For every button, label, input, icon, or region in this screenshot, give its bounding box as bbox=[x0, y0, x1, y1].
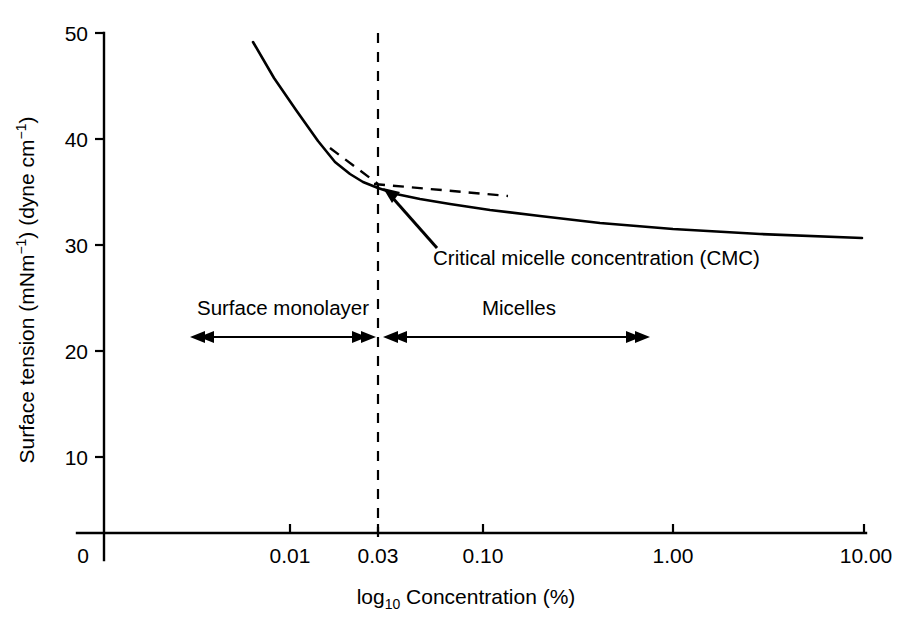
x-tick-label-10-00: 10.00 bbox=[840, 544, 893, 567]
x-tick-label-0-01: 0.01 bbox=[270, 544, 311, 567]
y-axis-title-sup2: −1 bbox=[13, 123, 29, 139]
cmc-pointer-head bbox=[383, 188, 400, 203]
micelles-span-arrow bbox=[383, 331, 650, 343]
x-tick-marks bbox=[290, 524, 864, 533]
y-axis-title-tail: ) bbox=[15, 116, 38, 123]
y-tick-label-20: 20 bbox=[65, 340, 88, 363]
surface-tension-chart: 50 40 30 20 10 0 0.01 0.03 0.10 1.00 10.… bbox=[0, 0, 912, 622]
y-axis-title-mid: ) (dyne cm bbox=[15, 139, 38, 238]
x-tick-label-1-00: 1.00 bbox=[653, 544, 694, 567]
x-tick-labels: 0 0.01 0.03 0.10 1.00 10.00 bbox=[77, 544, 892, 567]
surface-tension-curve bbox=[253, 42, 862, 238]
x-tick-label-0-10: 0.10 bbox=[463, 544, 504, 567]
x-tick-label-0: 0 bbox=[77, 544, 89, 567]
y-tick-marks bbox=[95, 33, 104, 457]
y-tick-label-40: 40 bbox=[65, 128, 88, 151]
x-axis-title-tail: Concentration (%) bbox=[400, 585, 575, 608]
cmc-annotation-label: Critical micelle concentration (CMC) bbox=[433, 246, 760, 269]
x-axis-title-sub: 10 bbox=[385, 596, 401, 612]
x-axis-title: log10 Concentration (%) bbox=[357, 585, 576, 612]
y-tick-label-10: 10 bbox=[65, 446, 88, 469]
x-tick-label-0-03: 0.03 bbox=[358, 544, 399, 567]
y-axis-title-lead: Surface tension (mNm bbox=[15, 255, 38, 464]
figure-root: 50 40 30 20 10 0 0.01 0.03 0.10 1.00 10.… bbox=[0, 0, 912, 622]
surface-monolayer-span-arrow bbox=[190, 331, 376, 343]
y-axis-title: Surface tension (mNm−1) (dyne cm−1) bbox=[13, 116, 38, 463]
pre-cmc-extrapolation bbox=[330, 148, 378, 184]
y-tick-label-50: 50 bbox=[65, 22, 88, 45]
y-tick-labels: 50 40 30 20 10 bbox=[65, 22, 88, 469]
x-axis-title-lead: log bbox=[357, 585, 385, 608]
cmc-pointer-shaft bbox=[391, 196, 437, 248]
y-tick-label-30: 30 bbox=[65, 234, 88, 257]
axis-group bbox=[77, 33, 866, 560]
surface-monolayer-label: Surface monolayer bbox=[197, 296, 369, 319]
micelles-label: Micelles bbox=[482, 296, 556, 319]
y-axis-title-sup1: −1 bbox=[13, 238, 29, 254]
